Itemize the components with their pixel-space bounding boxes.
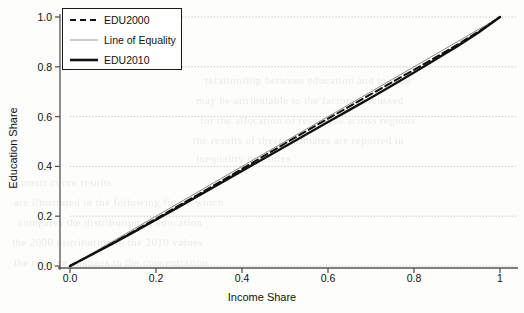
x-axis-label: Income Share [0,291,524,303]
y-tick-label: 0.6 [18,111,52,123]
legend-label: EDU2000 [104,14,150,26]
chart-legend: EDU2000 Line of Equality EDU2010 [62,8,182,70]
legend-key-thin-line-icon [69,33,99,47]
lorenz-curve-figure: relationship between education and incom… [0,0,524,313]
x-tick-label: 0.2 [149,272,164,284]
legend-item-line-of-equality: Line of Equality [63,30,181,50]
y-axis-label: Education Share [7,93,19,203]
legend-key-thick-line-icon [69,53,99,67]
x-tick-label: 1 [497,272,503,284]
x-tick-label: 0.4 [235,272,250,284]
y-tick-label: 1.0 [18,11,52,23]
legend-item-edu2010: EDU2010 [63,50,181,70]
legend-key-dashed-line-icon [69,13,99,27]
x-tick-label: 0.6 [321,272,336,284]
y-tick-label: 0.2 [18,210,52,222]
legend-label: Line of Equality [104,34,176,46]
y-tick-label: 0.8 [18,61,52,73]
x-tick-label: 0.8 [407,272,422,284]
legend-label: EDU2010 [104,54,150,66]
y-tick-label: 0.0 [18,260,52,272]
x-tick-label: 0.0 [63,272,78,284]
legend-item-edu2000: EDU2000 [63,10,181,30]
y-tick-label: 0.4 [18,160,52,172]
